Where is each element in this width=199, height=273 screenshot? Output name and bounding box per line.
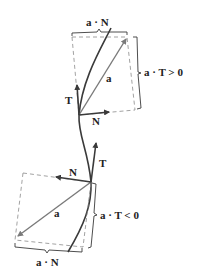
top-N-label: N xyxy=(92,115,100,127)
bottom-vector-T-arrow xyxy=(91,143,96,182)
top-vector-a-arrow xyxy=(79,39,126,115)
bottom-a-dot-T-label: a · T < 0 xyxy=(100,209,139,221)
top-a-dot-N-label: a · N xyxy=(86,16,109,28)
top-brace-a-dot-T xyxy=(133,37,141,109)
bottom-N-label: N xyxy=(69,166,77,178)
acceleration-components-diagram: a · N a · T > 0 T N a a · N a · T < 0 T … xyxy=(0,0,199,273)
top-a-label: a xyxy=(106,72,112,84)
top-a-dot-T-label: a · T > 0 xyxy=(144,66,183,78)
top-vector-T-arrow xyxy=(77,85,79,115)
top-panel: a · N a · T > 0 T N a xyxy=(65,16,183,127)
bottom-panel: a · N a · T < 0 T N a xyxy=(15,143,139,268)
bottom-a-label: a xyxy=(54,207,60,219)
bottom-T-label: T xyxy=(99,157,107,169)
bottom-a-dot-N-label: a · N xyxy=(36,256,59,268)
top-brace-a-dot-N xyxy=(72,29,127,36)
top-T-label: T xyxy=(65,94,73,106)
